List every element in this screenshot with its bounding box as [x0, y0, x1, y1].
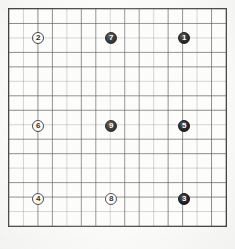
stone-6[interactable]: 6	[32, 120, 44, 132]
stone-label: 2	[36, 34, 40, 42]
stone-label: 9	[109, 122, 113, 130]
stone-label: 8	[109, 195, 113, 203]
stone-label: 1	[182, 34, 186, 42]
stone-9[interactable]: 9	[105, 120, 117, 132]
stone-7[interactable]: 7	[105, 32, 117, 44]
stone-5[interactable]: 5	[178, 120, 190, 132]
stone-4[interactable]: 4	[32, 193, 44, 205]
stone-label: 4	[36, 195, 40, 203]
stone-label: 7	[109, 34, 113, 42]
stone-layer: 123456789	[9, 9, 226, 226]
stone-2[interactable]: 2	[32, 32, 44, 44]
stone-3[interactable]: 3	[178, 193, 190, 205]
stone-label: 6	[36, 122, 40, 130]
stone-label: 5	[182, 122, 186, 130]
go-board[interactable]: 123456789	[8, 8, 227, 227]
stone-label: 3	[182, 195, 186, 203]
scanned-page-background: 123456789	[0, 0, 235, 249]
stone-1[interactable]: 1	[178, 32, 190, 44]
stone-8[interactable]: 8	[105, 193, 117, 205]
